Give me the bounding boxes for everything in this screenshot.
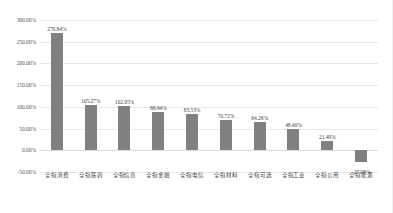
- bars-layer: 270.84%105.27%102.05%88.94%83.53%70.72%6…: [40, 20, 378, 172]
- bar[interactable]: [287, 129, 299, 150]
- x-axis-category-label: 全指公用: [315, 172, 339, 179]
- bar[interactable]: [85, 105, 97, 151]
- bar-chart: 300.00%250.00%200.00%150.00%100.00%50.00…: [0, 0, 393, 213]
- bar-value-label: 21.49%: [319, 134, 336, 140]
- bar-value-label: 48.40%: [285, 122, 302, 128]
- x-axis-category-label: 全指金融: [146, 172, 170, 179]
- x-axis-category-label: 全指材料: [214, 172, 238, 179]
- bar-value-label: 102.05%: [115, 99, 134, 105]
- bar-slot: 64.26%: [243, 20, 277, 172]
- bar-value-label: 64.26%: [251, 115, 268, 121]
- bar[interactable]: [118, 106, 130, 150]
- x-axis-category-label: 全指工业: [282, 172, 306, 179]
- x-axis-tick: 全指可选: [243, 172, 277, 184]
- bar-value-label: 83.53%: [184, 107, 201, 113]
- bar-value-label: 70.72%: [218, 113, 235, 119]
- x-axis-category-label: 全指电信: [180, 172, 204, 179]
- y-axis-tick-label: 150.00%: [0, 82, 36, 88]
- x-axis-category-label: 全指消费: [45, 172, 69, 179]
- bar-slot: 88.94%: [141, 20, 175, 172]
- bar[interactable]: [321, 141, 333, 150]
- x-axis-category-label: 全指可选: [248, 172, 272, 179]
- bar[interactable]: [220, 120, 232, 151]
- bar-slot: 48.40%: [277, 20, 311, 172]
- x-axis-tick: 全指金融: [141, 172, 175, 184]
- bar[interactable]: [254, 122, 266, 150]
- x-axis-tick: 全指能源: [344, 172, 378, 184]
- x-axis-category-label: 全指信息: [113, 172, 137, 179]
- bar[interactable]: [51, 33, 63, 151]
- bar-slot: 102.05%: [108, 20, 142, 172]
- y-axis-tick-label: 50.00%: [0, 126, 36, 132]
- bar-slot: 21.49%: [310, 20, 344, 172]
- bar[interactable]: [152, 112, 164, 151]
- y-axis-tick-label: -50.00%: [0, 169, 36, 175]
- x-axis-tick: 全指材料: [209, 172, 243, 184]
- plot-area: 300.00%250.00%200.00%150.00%100.00%50.00…: [40, 20, 378, 172]
- x-axis-tick: 全指信息: [108, 172, 142, 184]
- bar-slot: 70.72%: [209, 20, 243, 172]
- x-axis-tick: 全指公用: [310, 172, 344, 184]
- x-axis-tick: 全指工业: [277, 172, 311, 184]
- y-axis-tick-label: 100.00%: [0, 104, 36, 110]
- bar[interactable]: [186, 114, 198, 150]
- x-axis-labels: 全指消费全指医药全指信息全指金融全指电信全指材料全指可选全指工业全指公用全指能源: [40, 172, 378, 184]
- bar-slot: 270.84%: [40, 20, 74, 172]
- x-axis-category-label: 全指医药: [79, 172, 103, 179]
- x-axis-tick: 全指消费: [40, 172, 74, 184]
- y-axis-tick-label: 0.00%: [0, 147, 36, 153]
- bar[interactable]: [355, 150, 367, 162]
- y-axis-tick-label: 300.00%: [0, 17, 36, 23]
- y-axis-tick-label: 200.00%: [0, 60, 36, 66]
- x-axis-category-label: 全指能源: [349, 172, 373, 179]
- x-axis-tick: 全指医药: [74, 172, 108, 184]
- bar-slot: 83.53%: [175, 20, 209, 172]
- bar-value-label: 270.84%: [47, 26, 66, 32]
- bar-slot: 105.27%: [74, 20, 108, 172]
- bar-slot: -27.08%: [344, 20, 378, 172]
- y-axis-tick-label: 250.00%: [0, 39, 36, 45]
- x-axis-tick: 全指电信: [175, 172, 209, 184]
- bar-value-label: 105.27%: [81, 98, 100, 104]
- bar-value-label: 88.94%: [150, 105, 167, 111]
